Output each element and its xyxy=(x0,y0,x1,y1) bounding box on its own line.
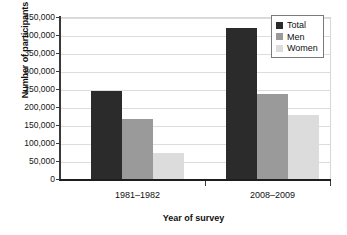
legend-item-total: Total xyxy=(276,20,318,31)
legend-label: Total xyxy=(287,20,306,30)
y-axis-tick-label: 400,000 xyxy=(10,31,55,39)
legend-item-women: Women xyxy=(276,43,318,54)
x-axis-line xyxy=(59,179,331,181)
bar-women-0 xyxy=(153,153,184,179)
x-axis-title: Year of survey xyxy=(56,213,331,223)
x-axis-category-label: 2008–2009 xyxy=(228,190,318,200)
y-axis-tick-label: 200,000 xyxy=(10,103,55,111)
y-axis-tick-label: 350,000 xyxy=(10,49,55,57)
legend-item-men: Men xyxy=(276,31,318,42)
chart-legend: TotalMenWomen xyxy=(271,15,324,58)
y-axis-tick-label: 100,000 xyxy=(10,139,55,147)
bar-women-1 xyxy=(288,115,319,179)
bar-chart-figure: Number of participants 450,000400,000350… xyxy=(0,0,347,235)
y-axis-tick-label: 50,000 xyxy=(10,157,55,165)
y-axis-tick-label: 250,000 xyxy=(10,85,55,93)
y-axis-tick-mark xyxy=(56,179,60,180)
legend-swatch-icon xyxy=(276,33,283,40)
x-axis-category-label: 1981–1982 xyxy=(93,190,183,200)
bar-total-0 xyxy=(91,91,122,179)
legend-swatch-icon xyxy=(276,45,283,52)
legend-label: Men xyxy=(287,32,305,42)
y-axis-tick-label: 300,000 xyxy=(10,67,55,75)
bar-men-1 xyxy=(257,94,288,179)
bar-total-1 xyxy=(226,28,257,179)
legend-label: Women xyxy=(287,43,318,53)
y-axis-tick-label: 450,000 xyxy=(10,13,55,21)
x-axis-end-tick xyxy=(330,181,331,186)
y-axis-tick-label: 0 xyxy=(10,175,55,183)
x-axis-tick-mark xyxy=(205,181,206,186)
legend-swatch-icon xyxy=(276,22,283,29)
y-axis-tick-label: 150,000 xyxy=(10,121,55,129)
bar-men-0 xyxy=(122,119,153,179)
